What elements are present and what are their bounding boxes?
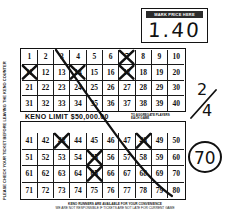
keno-number-cell[interactable]: 36 — [103, 96, 119, 111]
keno-number-cell[interactable]: 22 — [38, 81, 54, 97]
keno-number-cell[interactable]: 14 — [70, 65, 86, 81]
keno-number-cell[interactable]: 11 — [22, 65, 38, 81]
price-value-handwritten: 1.40 — [141, 18, 207, 42]
keno-number-cell[interactable]: 43 — [54, 133, 70, 150]
keno-number-cell[interactable]: 25 — [87, 81, 103, 97]
keno-number-cell[interactable]: 39 — [152, 96, 168, 111]
keno-number-cell[interactable]: 38 — [136, 96, 152, 111]
keno-number-cell[interactable]: 7 — [119, 50, 135, 66]
keno-number-cell[interactable]: 34 — [70, 96, 86, 111]
keno-number-cell[interactable]: 3 — [54, 50, 70, 66]
keno-number-cell[interactable]: 29 — [152, 81, 168, 97]
keno-number-cell[interactable]: 2 — [38, 50, 54, 66]
keno-number-cell[interactable]: 47 — [119, 133, 135, 150]
keno-number-label: 45 — [91, 137, 99, 145]
keno-number-label: 41 — [26, 137, 34, 145]
keno-number-cell[interactable]: 57 — [119, 150, 135, 167]
keno-number-cell[interactable]: 32 — [38, 96, 54, 111]
keno-number-cell[interactable]: 79 — [152, 183, 168, 199]
keno-number-label: 57 — [123, 154, 131, 162]
keno-number-cell[interactable]: 15 — [87, 65, 103, 81]
keno-number-cell[interactable]: 23 — [54, 81, 70, 97]
keno-number-cell[interactable]: 77 — [119, 183, 135, 199]
keno-number-cell[interactable]: 6 — [103, 50, 119, 66]
keno-number-cell[interactable]: 4 — [70, 50, 86, 66]
keno-number-cell[interactable]: 76 — [103, 183, 119, 199]
keno-number-cell[interactable]: 26 — [103, 81, 119, 97]
keno-number-cell[interactable]: 62 — [38, 166, 54, 183]
keno-number-cell[interactable]: 49 — [152, 133, 168, 150]
price-box[interactable]: MARK PRICE HERE 1.40 — [141, 8, 208, 43]
keno-number-cell[interactable]: 31 — [22, 96, 38, 111]
keno-number-cell[interactable]: 67 — [119, 166, 135, 183]
keno-number-cell[interactable]: 56 — [103, 150, 119, 167]
keno-number-cell[interactable]: 53 — [54, 150, 70, 167]
keno-number-label: 77 — [123, 187, 131, 195]
grid-block-upper[interactable]: 1234567891011121314151617181920212223242… — [22, 50, 185, 111]
side-instruction-text: PLEASE CHECK YOUR TICKET BEFORE LEAVING … — [2, 60, 14, 200]
keno-number-grid[interactable]: 1234567891011121314151617181920212223242… — [20, 48, 186, 200]
keno-number-cell[interactable]: 60 — [168, 150, 184, 167]
keno-number-cell[interactable]: 72 — [38, 183, 54, 199]
grid-block-lower[interactable]: 4142434445464748495051525354555657585960… — [22, 133, 185, 198]
keno-number-cell[interactable]: 18 — [136, 65, 152, 81]
keno-number-cell[interactable]: 21 — [22, 81, 38, 97]
keno-number-cell[interactable]: 63 — [54, 166, 70, 183]
keno-number-cell[interactable]: 61 — [22, 166, 38, 183]
keno-number-label: 20 — [172, 69, 180, 77]
keno-number-label: 42 — [42, 137, 50, 145]
keno-number-label: 24 — [74, 84, 82, 92]
keno-number-cell[interactable]: 51 — [22, 150, 38, 167]
keno-number-cell[interactable]: 42 — [38, 133, 54, 150]
keno-number-cell[interactable]: 19 — [152, 65, 168, 81]
keno-number-cell[interactable]: 69 — [152, 166, 168, 183]
keno-number-cell[interactable]: 50 — [168, 133, 184, 150]
keno-number-cell[interactable]: 9 — [152, 50, 168, 66]
keno-number-label: 51 — [26, 154, 34, 162]
keno-number-cell[interactable]: 17 — [119, 65, 135, 81]
keno-number-label: 7 — [125, 53, 129, 61]
keno-number-cell[interactable]: 65 — [87, 166, 103, 183]
keno-number-cell[interactable]: 1 — [22, 50, 38, 66]
keno-number-cell[interactable]: 24 — [70, 81, 86, 97]
keno-number-cell[interactable]: 48 — [136, 133, 152, 150]
keno-number-cell[interactable]: 35 — [87, 96, 103, 111]
keno-number-cell[interactable]: 28 — [136, 81, 152, 97]
keno-number-label: 64 — [74, 170, 82, 178]
keno-number-cell[interactable]: 33 — [54, 96, 70, 111]
keno-number-cell[interactable]: 5 — [87, 50, 103, 66]
keno-number-cell[interactable]: 64 — [70, 166, 86, 183]
keno-number-cell[interactable]: 78 — [136, 183, 152, 199]
keno-number-cell[interactable]: 70 — [168, 166, 184, 183]
keno-number-cell[interactable]: 45 — [87, 133, 103, 150]
keno-number-cell[interactable]: 74 — [70, 183, 86, 199]
keno-number-cell[interactable]: 30 — [168, 81, 184, 97]
keno-number-cell[interactable]: 41 — [22, 133, 38, 150]
keno-number-cell[interactable]: 80 — [168, 183, 184, 199]
keno-number-cell[interactable]: 59 — [152, 150, 168, 167]
keno-number-label: 23 — [58, 84, 66, 92]
keno-number-label: 36 — [107, 100, 115, 108]
keno-number-cell[interactable]: 71 — [22, 183, 38, 199]
keno-number-cell[interactable]: 68 — [136, 166, 152, 183]
keno-number-cell[interactable]: 73 — [54, 183, 70, 199]
keno-number-cell[interactable]: 10 — [168, 50, 184, 66]
keno-number-label: 30 — [172, 84, 180, 92]
keno-number-cell[interactable]: 66 — [103, 166, 119, 183]
keno-number-cell[interactable]: 54 — [70, 150, 86, 167]
keno-number-cell[interactable]: 40 — [168, 96, 184, 111]
keno-number-label: 56 — [107, 154, 115, 162]
keno-number-cell[interactable]: 52 — [38, 150, 54, 167]
keno-number-cell[interactable]: 20 — [168, 65, 184, 81]
keno-number-cell[interactable]: 13 — [54, 65, 70, 81]
keno-number-cell[interactable]: 75 — [87, 183, 103, 199]
keno-number-cell[interactable]: 16 — [103, 65, 119, 81]
keno-number-cell[interactable]: 46 — [103, 133, 119, 150]
keno-number-cell[interactable]: 55 — [87, 150, 103, 167]
keno-number-cell[interactable]: 27 — [119, 81, 135, 97]
keno-number-cell[interactable]: 8 — [136, 50, 152, 66]
keno-number-cell[interactable]: 12 — [38, 65, 54, 81]
keno-number-cell[interactable]: 44 — [70, 133, 86, 150]
keno-number-cell[interactable]: 37 — [119, 96, 135, 111]
keno-number-cell[interactable]: 58 — [136, 150, 152, 167]
